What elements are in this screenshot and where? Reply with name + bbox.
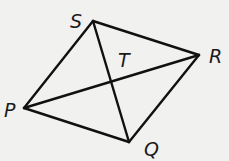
side-qp xyxy=(24,108,129,142)
vertex-label-q: Q xyxy=(144,138,159,160)
side-ps xyxy=(24,21,93,108)
vertex-label-p: P xyxy=(4,99,16,121)
side-sr xyxy=(93,21,199,55)
quadrilateral-diagram: S R Q P T xyxy=(0,0,229,161)
side-rq xyxy=(129,55,199,142)
vertex-label-s: S xyxy=(70,10,82,32)
intersection-label-t: T xyxy=(118,49,131,71)
vertex-label-r: R xyxy=(209,45,222,67)
diagonal-sq xyxy=(93,21,129,142)
